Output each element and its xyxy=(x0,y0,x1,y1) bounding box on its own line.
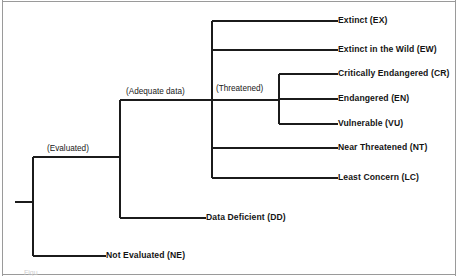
tree-diagram-canvas xyxy=(0,0,473,276)
diagram-page: (Evaluated) (Adequate data) (Threatened)… xyxy=(0,0,473,276)
leaf-label-critically-endangered: Critically Endangered (CR) xyxy=(338,69,449,78)
node-label-evaluated: (Evaluated) xyxy=(47,145,89,153)
evaluated-split-connector xyxy=(120,100,212,218)
leaf-label-near-threatened: Near Threatened (NT) xyxy=(338,143,427,152)
node-label-adequate-data: (Adequate data) xyxy=(126,88,185,96)
leaf-label-extinct: Extinct (EX) xyxy=(338,16,387,25)
caption-fragment: Figu xyxy=(24,269,38,276)
leaf-label-extinct-in-the-wild: Extinct in the Wild (EW) xyxy=(338,45,437,54)
page-frame xyxy=(2,0,455,276)
threatened-split-connector xyxy=(279,74,338,124)
leaf-label-vulnerable: Vulnerable (VU) xyxy=(338,119,403,128)
leaf-label-least-concern: Least Concern (LC) xyxy=(338,173,419,182)
leaf-label-endangered: Endangered (EN) xyxy=(338,94,409,103)
root-split-connector xyxy=(33,157,120,256)
leaf-label-not-evaluated: Not Evaluated (NE) xyxy=(106,251,185,260)
node-label-threatened: (Threatened) xyxy=(216,85,263,93)
leaf-label-data-deficient: Data Deficient (DD) xyxy=(206,213,286,222)
